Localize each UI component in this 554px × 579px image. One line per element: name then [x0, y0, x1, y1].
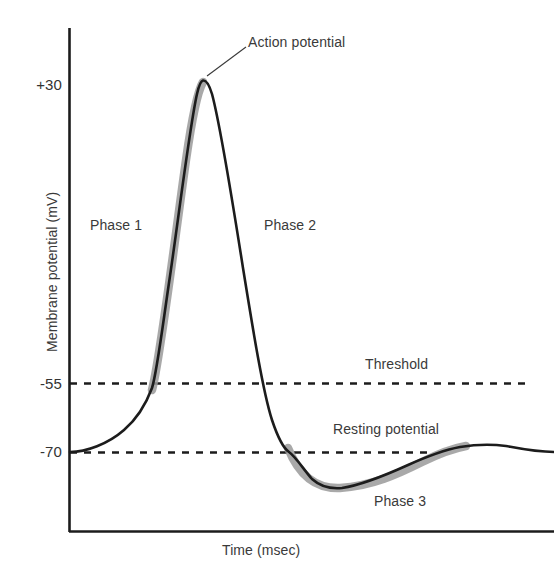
y-tick-label-peak: +30	[18, 77, 62, 92]
resting-potential-label: Resting potential	[333, 422, 439, 436]
threshold-label: Threshold	[365, 357, 428, 371]
action-potential-figure: +30 -55 -70 Membrane potential (mV) Time…	[0, 0, 554, 579]
phase-3-label: Phase 3	[374, 494, 426, 508]
x-axis-title: Time (msec)	[222, 543, 300, 557]
phase-1-label: Phase 1	[90, 218, 142, 232]
y-tick-label-threshold: -55	[18, 376, 62, 391]
action-potential-leader-line	[207, 47, 246, 76]
action-potential-label: Action potential	[248, 35, 345, 49]
action-potential-plot	[0, 0, 554, 579]
y-tick-label-resting: -70	[18, 444, 62, 459]
phase-2-label: Phase 2	[264, 218, 316, 232]
y-axis-title: Membrane potential (mV)	[45, 192, 59, 352]
membrane-potential-curve	[70, 80, 554, 488]
